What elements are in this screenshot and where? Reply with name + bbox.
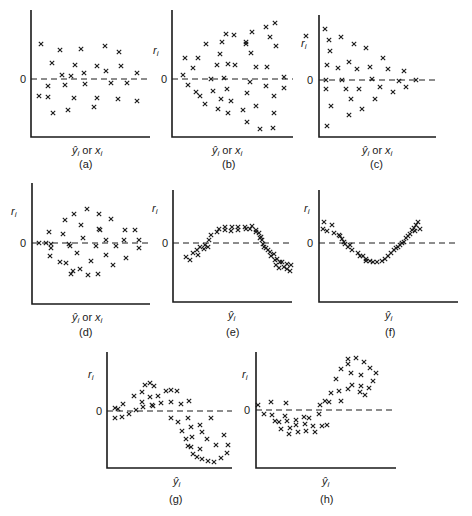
data-point-marker bbox=[226, 111, 230, 115]
data-point-marker bbox=[48, 254, 52, 258]
data-point-marker bbox=[262, 412, 266, 416]
data-point-marker bbox=[378, 85, 382, 89]
data-point-marker bbox=[132, 394, 136, 398]
data-point-marker bbox=[72, 96, 76, 100]
data-point-marker bbox=[219, 456, 223, 460]
data-point-marker bbox=[323, 399, 327, 403]
panel-e: 0 ri ŷi (e) bbox=[152, 190, 293, 338]
data-point-marker bbox=[254, 104, 258, 108]
y-axis-label: ri bbox=[11, 205, 17, 219]
panel-f: 0 ri ŷi (f) bbox=[304, 190, 458, 338]
data-point-marker bbox=[81, 236, 85, 240]
data-point-marker bbox=[92, 105, 96, 109]
data-point-marker bbox=[75, 251, 79, 255]
residual-plots-figure: 0 ŷiorxi (a) 0 ri ŷiorxi (b) 0 ri ŷiorxi… bbox=[0, 0, 472, 516]
data-point-marker bbox=[350, 383, 354, 387]
data-point-marker bbox=[279, 427, 283, 431]
data-point-marker bbox=[339, 367, 343, 371]
data-point-marker bbox=[194, 90, 198, 94]
data-point-marker bbox=[318, 403, 322, 407]
data-point-marker bbox=[187, 399, 191, 403]
data-point-marker bbox=[367, 386, 371, 390]
data-point-marker bbox=[180, 429, 184, 433]
axes bbox=[319, 15, 436, 137]
data-point-marker bbox=[404, 85, 408, 89]
zero-label: 0 bbox=[307, 74, 313, 86]
data-point-marker bbox=[134, 408, 138, 412]
scatter-points bbox=[181, 21, 308, 131]
data-point-marker bbox=[371, 379, 375, 383]
data-point-marker bbox=[327, 38, 331, 42]
data-point-marker bbox=[408, 232, 412, 236]
data-point-marker bbox=[117, 50, 121, 54]
data-point-marker bbox=[254, 65, 258, 69]
data-point-marker bbox=[225, 87, 229, 91]
data-point-marker bbox=[269, 400, 273, 404]
data-point-marker bbox=[203, 102, 207, 106]
panel-label: (f) bbox=[385, 326, 395, 338]
data-point-marker bbox=[287, 432, 291, 436]
data-point-marker bbox=[212, 460, 216, 464]
data-point-marker bbox=[141, 405, 145, 409]
data-point-marker bbox=[373, 97, 377, 101]
data-point-marker bbox=[37, 94, 41, 98]
data-point-marker bbox=[63, 83, 67, 87]
data-point-marker bbox=[332, 231, 336, 235]
data-point-marker bbox=[181, 73, 185, 77]
data-point-marker bbox=[186, 83, 190, 87]
data-point-marker bbox=[321, 227, 325, 231]
data-point-marker bbox=[346, 362, 350, 366]
data-point-marker bbox=[268, 250, 272, 254]
panel-c: 0 ri ŷiorxi (c) bbox=[301, 15, 436, 170]
data-point-marker bbox=[135, 71, 139, 75]
data-point-marker bbox=[78, 267, 82, 271]
data-point-marker bbox=[323, 27, 327, 31]
data-point-marker bbox=[285, 419, 289, 423]
data-point-marker bbox=[368, 366, 372, 370]
data-point-marker bbox=[271, 126, 275, 130]
data-point-marker bbox=[127, 412, 131, 416]
x-axis-label: ŷi bbox=[227, 309, 236, 323]
data-point-marker bbox=[349, 371, 353, 375]
data-point-marker bbox=[114, 244, 118, 248]
data-point-marker bbox=[191, 452, 195, 456]
data-point-marker bbox=[285, 262, 289, 266]
data-point-marker bbox=[64, 261, 68, 265]
data-point-marker bbox=[391, 90, 395, 94]
data-point-marker bbox=[206, 459, 210, 463]
data-point-marker bbox=[352, 42, 356, 46]
x-axis-label: ŷiorxi bbox=[71, 311, 103, 325]
data-point-marker bbox=[104, 238, 108, 242]
data-point-marker bbox=[169, 416, 173, 420]
data-point-marker bbox=[359, 373, 363, 377]
y-axis-label: ri bbox=[88, 368, 94, 382]
data-point-marker bbox=[339, 399, 343, 403]
zero-label: 0 bbox=[20, 73, 26, 85]
data-point-marker bbox=[334, 377, 338, 381]
axes bbox=[173, 190, 292, 302]
data-point-marker bbox=[209, 233, 213, 237]
data-point-marker bbox=[184, 255, 188, 259]
data-point-marker bbox=[198, 245, 202, 249]
data-point-marker bbox=[336, 66, 340, 70]
data-point-marker bbox=[72, 212, 76, 216]
data-point-marker bbox=[215, 63, 219, 67]
x-axis-label: ŷi bbox=[321, 475, 330, 489]
zero-label: 0 bbox=[244, 404, 250, 416]
y-axis-label: ri bbox=[152, 202, 158, 216]
data-point-marker bbox=[386, 67, 390, 71]
data-point-marker bbox=[135, 99, 139, 103]
data-point-marker bbox=[304, 429, 308, 433]
data-point-marker bbox=[103, 44, 107, 48]
data-point-marker bbox=[320, 424, 324, 428]
data-point-marker bbox=[46, 95, 50, 99]
data-point-marker bbox=[346, 387, 350, 391]
data-point-marker bbox=[121, 402, 125, 406]
axes bbox=[172, 10, 293, 137]
data-point-marker bbox=[200, 457, 204, 461]
data-point-marker bbox=[202, 247, 206, 251]
data-point-marker bbox=[49, 246, 53, 250]
data-point-marker bbox=[273, 21, 277, 25]
data-point-marker bbox=[273, 419, 277, 423]
data-point-marker bbox=[363, 393, 367, 397]
